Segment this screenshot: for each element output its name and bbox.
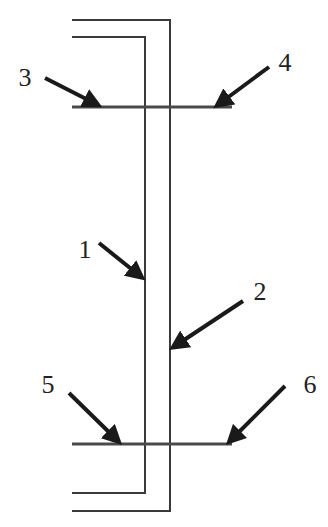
arrow-1-icon <box>99 243 140 276</box>
label-4: 4 <box>279 50 292 76</box>
label-5: 5 <box>42 372 55 398</box>
label-6: 6 <box>304 372 317 398</box>
schematic-diagram <box>0 0 328 527</box>
arrow-6-icon <box>231 386 285 440</box>
label-1: 1 <box>79 237 92 263</box>
arrow-5-icon <box>69 393 117 440</box>
arrow-3-icon <box>45 78 96 104</box>
label-2: 2 <box>254 279 267 305</box>
label-3: 3 <box>19 65 32 91</box>
arrow-4-icon <box>219 67 269 104</box>
outer-conductor-path <box>72 20 170 511</box>
arrow-2-icon <box>175 301 243 346</box>
inner-conductor-path <box>72 37 145 493</box>
